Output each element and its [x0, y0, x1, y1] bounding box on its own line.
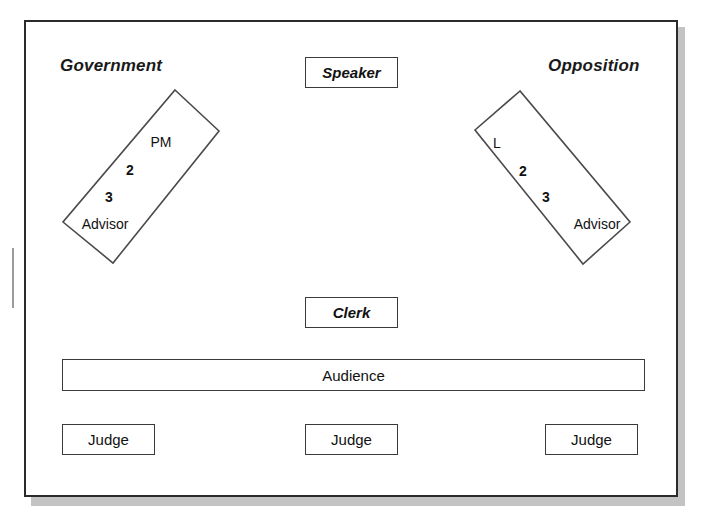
opposition-seat-3: 3 — [542, 189, 550, 205]
government-seat-2: 2 — [126, 162, 134, 178]
debate-room-diagram: Government Opposition PM 2 3 Advisor L 2… — [0, 0, 702, 518]
scan-artifact-line — [12, 248, 14, 308]
opposition-seat-advisor: Advisor — [574, 216, 621, 232]
opposition-seat-leader: L — [493, 135, 501, 151]
government-seat-3: 3 — [105, 189, 113, 205]
government-seat-advisor: Advisor — [82, 216, 129, 232]
audience-box: Audience — [62, 359, 645, 391]
opposition-seat-2: 2 — [519, 163, 527, 179]
clerk-box: Clerk — [305, 297, 398, 328]
speaker-box: Speaker — [305, 57, 398, 88]
judge-box-center: Judge — [305, 424, 398, 455]
government-seat-pm: PM — [151, 134, 172, 150]
government-heading: Government — [60, 56, 162, 76]
judge-box-right: Judge — [545, 424, 638, 455]
opposition-heading: Opposition — [548, 56, 640, 76]
judge-box-left: Judge — [62, 424, 155, 455]
